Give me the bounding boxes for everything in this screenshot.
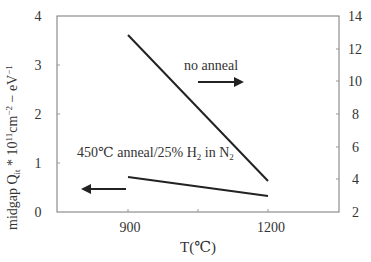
x-tick-1200: 1200 — [257, 220, 285, 235]
right-tick-4: 4 — [352, 172, 359, 187]
arrow-left-icon — [81, 184, 126, 194]
right-tick-2: 2 — [352, 205, 359, 220]
x-axis-labels: 900 1200 — [120, 220, 286, 235]
left-tick-0: 0 — [35, 205, 42, 220]
right-tick-8: 8 — [352, 107, 359, 122]
chart: 0 1 2 3 4 2 4 6 8 10 12 14 900 1200 T(℃)… — [0, 0, 371, 262]
left-tick-2: 2 — [35, 107, 42, 122]
right-tick-14: 14 — [348, 9, 362, 24]
right-tick-10: 10 — [348, 74, 362, 89]
y-axis-title: midgap Qit * 1011cm−2 − eV−1 — [4, 65, 22, 230]
annotation-no-anneal: no anneal — [184, 58, 238, 73]
right-tick-12: 12 — [348, 42, 362, 57]
x-tick-900: 900 — [120, 220, 141, 235]
x-axis-title: T(℃) — [180, 239, 216, 256]
right-axis-labels: 2 4 6 8 10 12 14 — [348, 9, 362, 220]
left-tick-3: 3 — [35, 58, 42, 73]
annotation-anneal: 450℃ anneal/25% H2 in N2 — [77, 145, 234, 162]
arrow-right-icon — [198, 77, 244, 87]
left-tick-4: 4 — [35, 9, 42, 24]
left-tick-1: 1 — [35, 156, 42, 171]
right-tick-6: 6 — [352, 140, 359, 155]
series-450c-anneal — [128, 177, 268, 196]
plot-frame — [57, 16, 339, 212]
left-axis-labels: 0 1 2 3 4 — [35, 9, 42, 220]
